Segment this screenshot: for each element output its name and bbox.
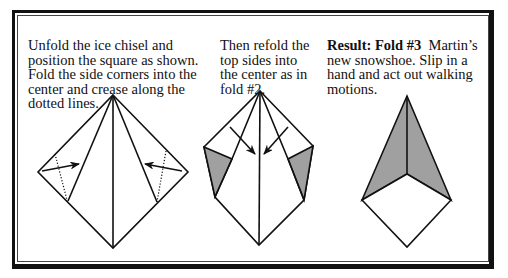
diagram-result	[362, 96, 451, 247]
center-crease	[259, 91, 260, 245]
fold-diagrams	[0, 0, 508, 278]
diagram-step-1	[38, 95, 188, 248]
diagram-step-2	[204, 91, 313, 245]
